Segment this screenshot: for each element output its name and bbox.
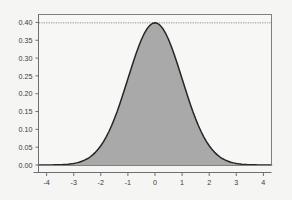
x-tick-label: 1: [180, 178, 184, 187]
y-tick-label: 0.05: [19, 143, 33, 152]
x-tick-label: 2: [207, 178, 211, 187]
x-tick-label: -3: [71, 178, 77, 187]
x-tick-label: 4: [261, 178, 265, 187]
x-tick-label: -2: [98, 178, 104, 187]
x-tick-label: -1: [125, 178, 131, 187]
x-tick-label: 0: [153, 178, 157, 187]
chart-figure: 0.000.050.100.150.200.250.300.350.40 -4-…: [0, 0, 292, 200]
y-tick-label: 0.10: [19, 125, 33, 134]
y-tick-label: 0.15: [19, 107, 33, 116]
y-tick-label: 0.30: [19, 54, 33, 63]
x-tick-label: -4: [43, 178, 49, 187]
y-tick-label: 0.00: [19, 161, 33, 170]
y-tick-label: 0.25: [19, 72, 33, 81]
y-tick-label: 0.40: [19, 18, 33, 27]
y-tick-label: 0.35: [19, 36, 33, 45]
x-tick-label: 3: [234, 178, 238, 187]
normal-distribution-chart: 0.000.050.100.150.200.250.300.350.40 -4-…: [0, 0, 292, 200]
y-tick-label: 0.20: [19, 89, 33, 98]
